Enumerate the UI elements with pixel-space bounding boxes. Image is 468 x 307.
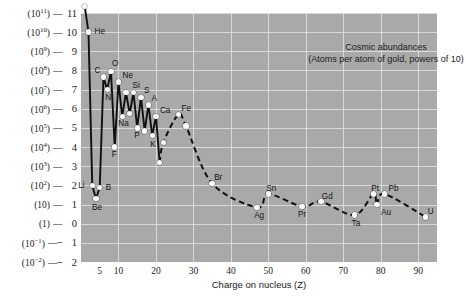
y-tick-power: (105) [31,122,50,134]
y-tick-power: (109) [31,45,50,57]
data-point [146,102,151,107]
y-tick-value: 3 [64,161,81,172]
y-tick-power: (108) [31,64,50,76]
y-axis-tick: (1010)—10 [0,25,81,39]
y-tick-value: 8 [64,65,81,76]
y-tick-dash: — [50,84,64,95]
plot-area: HHeLiBeBCNOFNeNaSiPSAKCaFeBrAgSnPrGdTaPt… [81,13,437,262]
element-label: N [105,93,111,102]
y-axis-tick: (108)—8 [0,63,81,77]
data-point [93,196,98,201]
data-point [131,90,136,95]
element-label: K [150,140,155,149]
data-point [382,191,387,196]
y-tick-dash: — [50,27,64,38]
y-tick-dash: — [50,199,64,210]
data-point [374,202,379,207]
data-point [176,112,181,117]
data-point [299,204,304,209]
data-point [150,133,155,138]
element-label: Br [214,173,222,182]
element-label: P [134,131,139,140]
element-label: Ta [352,219,361,228]
element-label: B [106,183,111,192]
y-tick-value: 11 [64,8,81,19]
y-axis-tick: (106)—6 [0,102,81,116]
y-tick-dash: — [50,122,64,133]
element-label: Sn [266,184,276,193]
x-axis-tick: 5 [97,266,102,276]
x-axis-tick: 20 [151,266,161,276]
element-label: Pb [389,184,399,193]
data-point [153,114,158,119]
element-label: F [112,150,117,159]
y-tick-power: (103) [31,160,50,172]
element-label: Na [118,119,128,128]
y-tick-power: (10−2) [22,256,45,268]
y-tick-value: 7 [64,84,81,95]
data-point [82,4,87,9]
data-point [97,185,102,190]
x-axis-tick: 40 [226,266,236,276]
title-line: Cosmic abundances [261,42,468,54]
element-label: He [94,27,104,36]
x-axis-tick: 30 [189,266,199,276]
element-label: U [428,207,434,216]
y-tick-dash: —− [45,237,64,248]
element-label: Be [92,203,102,212]
data-point [116,79,121,84]
element-label: A [151,94,156,103]
element-label: Li [78,181,84,190]
y-tick-dash: — [50,8,64,19]
y-tick-power: (106) [31,103,50,115]
y-tick-power: (107) [31,84,50,96]
y-tick-value: 0 [64,218,81,229]
chart-title: Cosmic abundances (Atoms per atom of gol… [261,42,468,65]
y-axis-tick: (102)—2 [0,178,81,192]
x-axis-tick: 70 [339,266,349,276]
y-axis-tick: (107)—7 [0,83,81,97]
element-label: Ca [160,106,170,115]
x-axis-tick: 80 [376,266,386,276]
y-tick-power: (1011) [28,7,50,19]
element-label: Ag [254,211,264,220]
data-point [123,90,128,95]
element-label: O [112,59,118,68]
x-axis-tick: 10 [114,266,124,276]
element-label: Ne [122,71,132,80]
data-point [161,140,166,145]
element-label: S [144,86,149,95]
data-point [86,29,91,34]
element-label: Pr [298,210,306,219]
element-label: H [87,0,93,2]
y-axis-tick: (10−2)—−2 [0,255,81,269]
data-point [142,128,147,133]
y-tick-value: 5 [64,122,81,133]
y-axis-tick: (109)—9 [0,44,81,58]
data-point [183,123,188,128]
element-label: C [94,66,100,75]
x-axis-label: Charge on nucleus (Z) [81,279,437,290]
y-tick-power: (1) [39,219,50,229]
data-point [105,87,110,92]
data-point [138,95,143,100]
y-tick-power: (1010) [27,26,50,38]
y-tick-dash: — [50,180,64,191]
y-tick-dash: — [50,103,64,114]
data-point [90,183,95,188]
element-label: Gd [322,192,333,201]
y-tick-value: 1 [64,199,81,210]
y-axis-tick: (103)—3 [0,159,81,173]
x-axis-tick: 60 [301,266,311,276]
y-tick-power: (102) [31,179,50,191]
y-tick-dash: — [50,142,64,153]
y-tick-value: 9 [64,46,81,57]
y-tick-value: 2 [64,257,81,268]
y-tick-power: (104) [31,141,50,153]
y-tick-dash: — [50,161,64,172]
data-point [157,160,162,165]
y-tick-power: (10) [34,200,50,210]
y-tick-dash: —− [45,257,64,268]
y-axis-tick: (1011)—11 [0,6,81,20]
